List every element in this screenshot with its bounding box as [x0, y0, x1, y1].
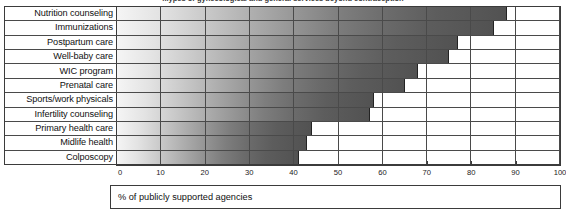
bar-rows: Nutrition counselingImmunizationsPostpar…	[5, 7, 560, 164]
bar-row-label: Well-baby care	[5, 50, 117, 63]
gridline	[426, 93, 427, 106]
bar-row-plot	[117, 136, 560, 149]
bar	[117, 36, 458, 49]
bar-row: Colposcopy	[5, 151, 560, 164]
gridline	[559, 79, 560, 92]
gridline	[426, 64, 427, 77]
gridline	[382, 122, 383, 135]
bar-row-plot	[117, 122, 560, 135]
x-axis-tick-label: 40	[289, 168, 297, 177]
x-axis-tick-label: 50	[334, 168, 342, 177]
gridline	[515, 79, 516, 92]
x-axis-tick-label: 90	[511, 168, 519, 177]
bar-row: Prenatal care	[5, 79, 560, 93]
gridline	[515, 108, 516, 121]
bar-row: Immunizations	[5, 21, 560, 35]
x-axis-tick-label: 70	[423, 168, 431, 177]
x-axis-tick-label: 0	[118, 168, 122, 177]
bar-row: Midlife health	[5, 136, 560, 150]
x-axis-tick	[471, 161, 472, 166]
bar	[117, 7, 507, 20]
x-axis-tick-label: 30	[245, 168, 253, 177]
bar	[117, 136, 307, 149]
bar	[117, 122, 312, 135]
gridline	[470, 136, 471, 149]
bar-row-label: Midlife health	[5, 136, 117, 149]
bar-row-label: Colposcopy	[5, 151, 117, 164]
x-axis-tick-label: 20	[201, 168, 209, 177]
bar-row: Infertility counseling	[5, 108, 560, 122]
x-axis-tick	[560, 161, 561, 166]
x-axis-tick-label: 100	[554, 168, 566, 177]
bar-row-plot	[117, 50, 560, 63]
bar-row-label: Primary health care	[5, 122, 117, 135]
gridline	[470, 93, 471, 106]
chart-title-text: ...ypes of gynecological and general ser…	[0, 0, 566, 4]
bar-row-plot	[117, 108, 560, 121]
x-axis-caption-box: % of publicly supported agencies	[110, 185, 561, 209]
gridline	[515, 122, 516, 135]
bar-row-plot	[117, 79, 560, 92]
x-axis-tick	[427, 161, 428, 166]
gridline	[559, 93, 560, 106]
gridline	[515, 136, 516, 149]
bar	[117, 79, 405, 92]
gridline	[559, 50, 560, 63]
x-axis-tick	[382, 161, 383, 166]
gridline	[338, 136, 339, 149]
bar-row: Sports/work physicals	[5, 93, 560, 107]
x-axis-tick	[338, 161, 339, 166]
bar-row-label: Infertility counseling	[5, 108, 117, 121]
gridline	[559, 108, 560, 121]
x-axis-tick-label: 60	[378, 168, 386, 177]
bar-row-plot	[117, 7, 560, 20]
bar-row-label: WIC program	[5, 64, 117, 77]
x-axis-tick-label: 80	[467, 168, 475, 177]
gridline	[515, 50, 516, 63]
gridline	[470, 50, 471, 63]
gridline	[470, 36, 471, 49]
gridline	[515, 36, 516, 49]
bar-row: Postpartum care	[5, 36, 560, 50]
gridline	[559, 122, 560, 135]
x-axis-tick-label: 10	[156, 168, 164, 177]
gridline	[515, 93, 516, 106]
x-axis-caption-text: % of publicly supported agencies	[118, 192, 252, 202]
bar-row-label: Immunizations	[5, 21, 117, 34]
bar-row: Well-baby care	[5, 50, 560, 64]
bar-row-label: Nutrition counseling	[5, 7, 117, 20]
bar-row-plot	[117, 93, 560, 106]
gridline	[515, 21, 516, 34]
gridline	[470, 108, 471, 121]
gridline	[559, 36, 560, 49]
gridline	[470, 122, 471, 135]
bar-row-label: Postpartum care	[5, 36, 117, 49]
bar	[117, 64, 418, 77]
bar-row-plot	[117, 36, 560, 49]
gridline	[382, 136, 383, 149]
gridline	[515, 64, 516, 77]
horizontal-bar-chart: ...ypes of gynecological and general ser…	[0, 0, 566, 214]
gridline	[559, 21, 560, 34]
gridline	[470, 79, 471, 92]
plot-frame: Nutrition counselingImmunizationsPostpar…	[4, 6, 561, 165]
gridline	[470, 64, 471, 77]
gridline	[382, 93, 383, 106]
bar	[117, 151, 299, 164]
x-axis-tick	[516, 161, 517, 166]
gridline	[426, 108, 427, 121]
bar-row-label: Prenatal care	[5, 79, 117, 92]
gridline	[559, 7, 560, 20]
bar	[117, 50, 449, 63]
bar-row: WIC program	[5, 64, 560, 78]
gridline	[426, 79, 427, 92]
bar	[117, 93, 374, 106]
gridline	[559, 136, 560, 149]
chart-title-clipped: ...ypes of gynecological and general ser…	[0, 0, 566, 4]
bar-row: Nutrition counseling	[5, 7, 560, 21]
bar	[117, 108, 370, 121]
gridline	[382, 108, 383, 121]
gridline	[338, 122, 339, 135]
bar-row: Primary health care	[5, 122, 560, 136]
bar-row-plot	[117, 64, 560, 77]
